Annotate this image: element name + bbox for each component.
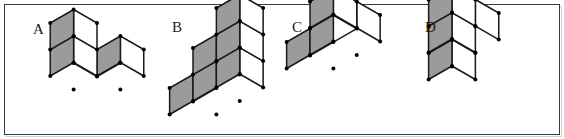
vertex-dot (331, 67, 335, 71)
panel-label-a: A (33, 21, 44, 37)
vertex-dot (497, 11, 501, 15)
vertex-dot (191, 73, 195, 77)
vertex-dot (238, 72, 242, 76)
block-assembly-a (48, 8, 146, 92)
block-assembly-c (285, 0, 383, 71)
vertex-dot (72, 8, 76, 12)
vertex-dot (142, 74, 146, 78)
block-assembly-b (168, 0, 266, 116)
vertex-dot (473, 78, 477, 82)
vertex-dot (331, 13, 335, 17)
block-assembly-d (427, 0, 501, 81)
vertex-dot (214, 60, 218, 64)
vertex-dot (427, 51, 431, 55)
vertex-dot (168, 86, 172, 90)
vertex-dot (238, 46, 242, 50)
vertex-dot (261, 59, 265, 63)
vertex-dot (450, 37, 454, 41)
vertex-dot (118, 61, 122, 65)
vertex-dot (308, 26, 312, 30)
vertex-dot (261, 6, 265, 10)
vertex-dot (473, 51, 477, 55)
panel-label-b: B (172, 19, 182, 35)
isometric-figures-canvas: A B C D (0, 0, 564, 139)
figure-panel: A B C D (0, 0, 564, 139)
vertex-dot (72, 61, 76, 65)
vertex-dot (48, 74, 52, 78)
vertex-dot (308, 53, 312, 57)
vertex-dot (48, 21, 52, 25)
vertex-dot (191, 99, 195, 103)
vertex-dot (450, 64, 454, 68)
vertex-dot (48, 48, 52, 52)
vertex-dot (261, 86, 265, 90)
vertex-dot (118, 88, 122, 92)
vertex-dot (285, 67, 289, 71)
vertex-dot (285, 40, 289, 44)
vertex-dot (378, 13, 382, 17)
panel-label-d: D (425, 19, 436, 35)
vertex-dot (72, 35, 76, 39)
vertex-dot (72, 88, 76, 92)
vertex-dot (238, 20, 242, 24)
vertex-dot (497, 38, 501, 42)
vertex-dot (142, 48, 146, 52)
vertex-dot (378, 40, 382, 44)
vertex-dot (355, 26, 359, 30)
vertex-dot (331, 40, 335, 44)
vertex-dot (214, 113, 218, 117)
vertex-dot (214, 6, 218, 10)
vertex-dot (168, 113, 172, 117)
vertex-dot (118, 34, 122, 38)
vertex-dot (214, 86, 218, 90)
vertex-dot (427, 78, 431, 82)
vertex-dot (261, 33, 265, 37)
vertex-dot (95, 74, 99, 78)
vertex-dot (95, 21, 99, 25)
shapes-layer (48, 0, 501, 117)
panel-label-c: C (292, 19, 302, 35)
vertex-dot (450, 11, 454, 15)
vertex-dot (214, 33, 218, 37)
vertex-dot (355, 53, 359, 57)
vertex-dot (238, 99, 242, 103)
vertex-dot (95, 48, 99, 52)
vertex-dot (191, 46, 195, 50)
vertex-dot (473, 24, 477, 28)
